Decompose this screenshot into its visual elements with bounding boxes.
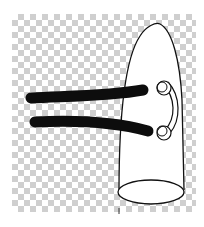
cone-illustration	[0, 0, 204, 227]
lower-rod	[35, 121, 148, 131]
upper-ring	[157, 81, 171, 95]
upper-rod	[31, 90, 143, 98]
illustration-canvas	[0, 0, 204, 227]
lower-ring	[157, 126, 171, 140]
cone-body	[119, 24, 184, 193]
cone-base-ellipse	[118, 180, 184, 204]
